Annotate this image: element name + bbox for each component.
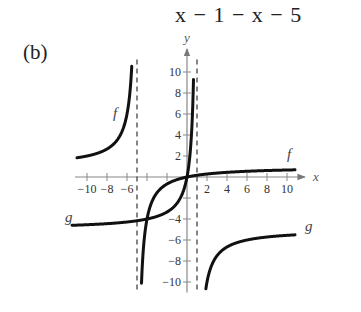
x-axis-label: x bbox=[312, 169, 319, 184]
y-tick-label: 4 bbox=[175, 128, 181, 142]
curve-f-left bbox=[77, 66, 132, 157]
x-tick-label: 2 bbox=[204, 182, 210, 196]
curve-f-right bbox=[142, 170, 296, 283]
y-tick-label: −8 bbox=[168, 254, 181, 268]
x-tick-label: −6 bbox=[121, 182, 134, 196]
curve-label-g: g bbox=[65, 209, 73, 225]
y-tick-label: −10 bbox=[162, 275, 181, 289]
curve-label-g: g bbox=[305, 218, 313, 234]
curve-g-right bbox=[206, 235, 295, 289]
x-tick-label: 8 bbox=[264, 182, 270, 196]
curve-label-f: f bbox=[287, 146, 293, 162]
y-tick-label: 8 bbox=[175, 86, 181, 100]
y-tick-label: 6 bbox=[175, 107, 181, 121]
x-tick-label: 6 bbox=[244, 182, 250, 196]
x-tick-label: 10 bbox=[281, 182, 293, 196]
x-tick-label: −8 bbox=[101, 182, 114, 196]
axis-labels: −10−8−6246810108642−4−6−8−10xyffgg bbox=[65, 30, 319, 289]
y-tick-label: −6 bbox=[168, 233, 181, 247]
y-tick-label: 2 bbox=[175, 149, 181, 163]
x-tick-label: −10 bbox=[78, 182, 97, 196]
curve-label-f: f bbox=[113, 105, 119, 121]
y-tick-label: 10 bbox=[169, 65, 181, 79]
y-tick-label: −4 bbox=[168, 212, 181, 226]
chart-plot: −10−8−6246810108642−4−6−8−10xyffgg bbox=[0, 0, 361, 312]
x-tick-label: 4 bbox=[224, 182, 230, 196]
y-axis-label: y bbox=[182, 30, 190, 45]
